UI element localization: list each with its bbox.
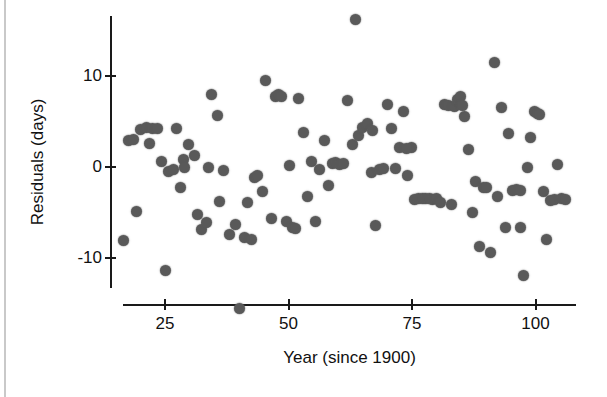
data-point — [435, 197, 446, 208]
data-point — [370, 220, 381, 231]
data-point — [560, 194, 571, 205]
data-point — [500, 222, 511, 233]
x-axis-tick — [164, 299, 166, 310]
data-point — [534, 109, 545, 120]
data-point — [382, 99, 393, 110]
x-axis-title: Year (since 1900) — [123, 348, 576, 368]
data-point — [386, 123, 397, 134]
y-axis-tick-label-text: 10 — [54, 67, 102, 84]
data-point — [203, 162, 214, 173]
data-point — [314, 164, 325, 175]
data-point — [290, 223, 301, 234]
data-point — [402, 170, 413, 181]
data-point — [492, 191, 503, 202]
y-axis-tick-label-text: -10 — [54, 249, 102, 266]
y-axis-title: Residuals (days) — [28, 62, 48, 262]
data-point — [234, 303, 245, 314]
data-point — [156, 156, 167, 167]
data-point — [189, 150, 200, 161]
data-point — [152, 123, 163, 134]
y-axis-line — [110, 16, 112, 288]
data-point — [214, 196, 225, 207]
data-point — [201, 217, 212, 228]
data-point — [446, 199, 457, 210]
y-axis-tick-label: -10 — [50, 249, 102, 266]
data-point — [266, 213, 277, 224]
data-point — [342, 95, 353, 106]
data-point — [131, 206, 142, 217]
x-axis-line — [123, 304, 576, 306]
scatter-plot-figure: 100-10 255075100 Residuals (days) Year (… — [0, 0, 607, 397]
x-axis-tick-label: 25 — [135, 314, 195, 333]
data-point — [350, 14, 361, 25]
data-point — [284, 160, 295, 171]
data-point — [171, 123, 182, 134]
data-point — [252, 170, 263, 181]
data-point — [378, 163, 389, 174]
data-point — [144, 138, 155, 149]
data-point — [496, 102, 507, 113]
data-point — [246, 234, 257, 245]
data-point — [218, 165, 229, 176]
data-point — [522, 162, 533, 173]
data-point — [319, 135, 330, 146]
data-point — [457, 100, 468, 111]
data-point — [467, 207, 478, 218]
data-point — [160, 265, 171, 276]
data-point — [525, 132, 536, 143]
data-point — [541, 234, 552, 245]
data-point — [293, 93, 304, 104]
y-axis-tick-label: 10 — [50, 67, 102, 84]
x-axis-tick — [411, 299, 413, 310]
data-point — [463, 144, 474, 155]
data-point — [183, 139, 194, 150]
plot-area: 100-10 255075100 Residuals (days) Year (… — [0, 0, 607, 397]
y-axis-tick-label-text: 0 — [54, 158, 102, 175]
x-axis-tick — [535, 299, 537, 310]
data-point — [515, 185, 526, 196]
data-point — [323, 180, 334, 191]
data-point — [515, 222, 526, 233]
data-point — [485, 247, 496, 258]
data-point — [338, 158, 349, 169]
data-point — [302, 191, 313, 202]
data-point — [242, 197, 253, 208]
data-point — [276, 91, 287, 102]
data-point — [179, 162, 190, 173]
data-point — [260, 75, 271, 86]
data-point — [398, 106, 409, 117]
y-axis-tick-label: 0 — [50, 158, 102, 175]
data-point — [552, 159, 563, 170]
data-point — [212, 110, 223, 121]
data-point — [481, 182, 492, 193]
data-point — [128, 134, 139, 145]
data-point — [175, 182, 186, 193]
y-axis-tick — [105, 257, 116, 259]
data-point — [298, 127, 309, 138]
data-point — [206, 89, 217, 100]
data-point — [474, 241, 485, 252]
data-point — [310, 216, 321, 227]
data-point — [390, 163, 401, 174]
data-point — [489, 57, 500, 68]
y-axis-tick — [105, 75, 116, 77]
x-axis-tick — [288, 299, 290, 310]
data-point — [459, 111, 470, 122]
data-point — [118, 235, 129, 246]
x-axis-tick-label: 100 — [506, 314, 566, 333]
data-point — [401, 143, 412, 154]
data-point — [168, 164, 179, 175]
data-point — [367, 125, 378, 136]
data-point — [224, 229, 235, 240]
data-point — [503, 128, 514, 139]
data-point — [518, 270, 529, 281]
data-point — [257, 186, 268, 197]
x-axis-tick-label: 50 — [259, 314, 319, 333]
x-axis-tick-label: 75 — [382, 314, 442, 333]
y-axis-tick — [105, 166, 116, 168]
data-point — [230, 219, 241, 230]
